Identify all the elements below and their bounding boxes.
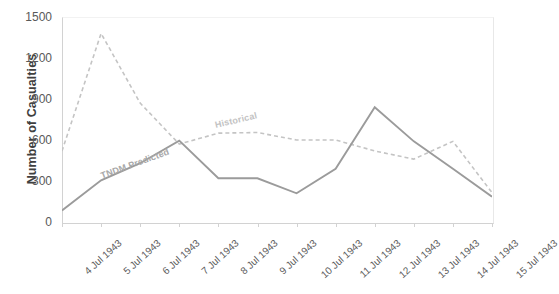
x-tick-label: 7 Jul 1943	[199, 237, 241, 276]
x-tick-label: 9 Jul 1943	[278, 237, 320, 276]
x-tick-label: 13 Jul 1943	[435, 237, 481, 280]
x-tick-label: 6 Jul 1943	[160, 237, 202, 276]
x-tick-label: 5 Jul 1943	[121, 237, 163, 276]
x-tick-label: 15 Jul 1943	[514, 237, 559, 280]
x-tick-label: 12 Jul 1943	[396, 237, 442, 280]
x-tick-label: 4 Jul 1943	[82, 237, 124, 276]
x-tick-label: 14 Jul 1943	[475, 237, 521, 280]
x-tick-label: 8 Jul 1943	[239, 237, 281, 276]
x-tick-label: 10 Jul 1943	[318, 237, 364, 280]
